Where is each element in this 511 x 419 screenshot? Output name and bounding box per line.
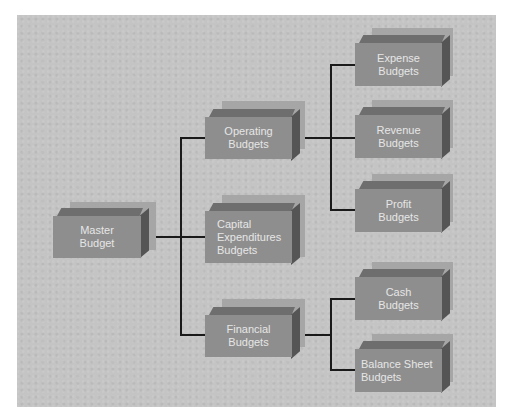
node-expense-budgets-label: Expense Budgets [355,43,442,86]
node-financial-budgets-label: Financial Budgets [205,315,292,357]
connector-financial-vertical [330,298,332,371]
connector-level2-vertical [180,137,182,336]
connector-to-cash [330,298,356,300]
connector-to-expense [330,64,356,66]
node-revenue-budgets-label: Revenue Budgets [355,115,442,158]
node-balance-sheet-budgets-label: Balance Sheet Budgets [355,349,442,392]
node-operating-budgets-label: Operating Budgets [205,117,292,159]
node-profit-budgets-label: Profit Budgets [355,189,442,232]
connector-master-horizontal [148,236,206,238]
connector-to-balance-sheet [330,369,356,371]
connector-operating-vertical [330,64,332,211]
connector-to-financial [180,334,206,336]
node-capital-expenditures-budgets-label: Capital Expenditures Budgets [205,211,292,263]
connector-operating-horizontal [298,137,356,139]
node-cash-budgets-label: Cash Budgets [355,277,442,320]
node-master-budget-label: Master Budget [53,216,141,258]
connector-to-operating [180,137,206,139]
connector-to-profit [330,209,356,211]
